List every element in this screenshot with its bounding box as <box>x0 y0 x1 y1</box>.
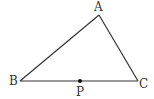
point-p-marker <box>78 79 82 83</box>
vertex-label-c: C <box>139 77 148 91</box>
point-label-p: P <box>76 85 84 99</box>
diagram-canvas: A B C P <box>0 0 154 99</box>
segment-ab <box>20 15 99 81</box>
triangle-diagram: A B C P <box>0 0 154 99</box>
segment-ca <box>99 15 138 81</box>
vertex-label-b: B <box>9 74 18 88</box>
vertex-label-a: A <box>93 0 103 14</box>
